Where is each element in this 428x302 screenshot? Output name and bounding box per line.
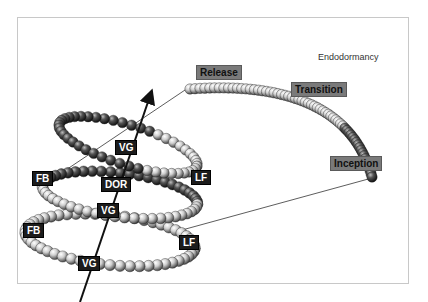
release-label: Release [196, 65, 242, 80]
vg-top-label: VG [115, 140, 137, 155]
spiral-diagram [0, 0, 428, 302]
dor-label: DOR [101, 177, 131, 192]
inception-label: Inception [330, 156, 382, 171]
lf-upper-label: LF [191, 170, 211, 185]
lf-lower-label: LF [179, 235, 199, 250]
endodormancy-title: Endodormancy [318, 52, 379, 62]
fb-upper-label: FB [32, 171, 53, 186]
vg-bottom-label: VG [78, 256, 100, 271]
vg-middle-label: VG [97, 203, 119, 218]
fb-lower-label: FB [23, 223, 44, 238]
transition-label: Transition [291, 82, 347, 97]
